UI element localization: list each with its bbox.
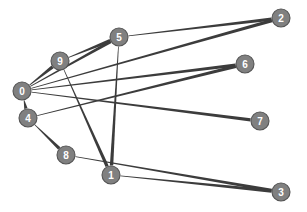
graph-node-label-1: 1 xyxy=(108,170,114,181)
graph-node-label-8: 8 xyxy=(63,150,69,161)
graph-node-label-6: 6 xyxy=(242,59,248,70)
graph-node-label-7: 7 xyxy=(257,116,263,127)
graph-canvas: 0123456789 xyxy=(0,0,307,212)
graph-node-7[interactable]: 7 xyxy=(251,112,269,130)
edge-layer xyxy=(24,17,273,192)
graph-node-5[interactable]: 5 xyxy=(110,28,128,46)
graph-node-4[interactable]: 4 xyxy=(19,109,37,127)
graph-node-1[interactable]: 1 xyxy=(102,166,120,184)
graph-edge-0-5 xyxy=(30,40,111,87)
graph-node-label-5: 5 xyxy=(116,32,122,43)
graph-edge-0-4 xyxy=(24,100,28,109)
graph-node-label-3: 3 xyxy=(278,187,284,198)
graph-node-2[interactable]: 2 xyxy=(272,9,290,27)
graph-edge-9-5 xyxy=(69,39,111,58)
graph-edge-4-6 xyxy=(37,65,236,116)
graph-edge-4-8 xyxy=(35,124,61,149)
graph-node-label-0: 0 xyxy=(19,86,25,97)
graph-node-label-2: 2 xyxy=(278,13,284,24)
graph-node-0[interactable]: 0 xyxy=(13,82,31,100)
graph-node-label-9: 9 xyxy=(57,56,63,67)
graph-node-3[interactable]: 3 xyxy=(272,183,290,201)
graph-edge-0-7 xyxy=(31,92,250,122)
graph-node-label-4: 4 xyxy=(25,113,31,124)
graph-node-9[interactable]: 9 xyxy=(51,52,69,70)
graph-node-6[interactable]: 6 xyxy=(236,55,254,73)
graph-node-8[interactable]: 8 xyxy=(57,146,75,164)
node-layer: 0123456789 xyxy=(13,9,290,201)
